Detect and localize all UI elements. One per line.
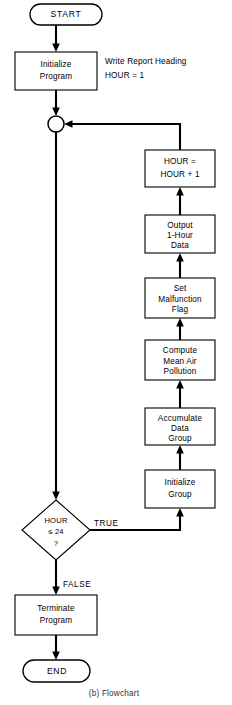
edge-label-true: TRUE — [94, 519, 119, 528]
compute-mean-label-line3: Pollution — [164, 367, 197, 376]
hour-decision-label-line3: ? — [54, 539, 58, 548]
arrowhead-terminate — [52, 587, 60, 596]
arrowhead-decision — [52, 492, 60, 501]
accumulate-data-label-line3: Group — [168, 434, 192, 443]
output-data-label-line2: 1-Hour — [167, 231, 193, 240]
output-data-label-line3: Data — [171, 241, 189, 250]
hour-increment-shape — [145, 150, 215, 187]
hour-decision-label-line1: HOUR — [44, 516, 67, 525]
node-end[interactable]: END — [23, 660, 90, 682]
node-accumulate-data-group[interactable]: Accumulate Data Group — [145, 408, 215, 445]
node-initialize-group[interactable]: Initialize Group — [145, 470, 215, 508]
set-malfunction-label-line2: Malfunction — [158, 295, 202, 304]
hour-increment-label-line1: HOUR = — [164, 157, 196, 166]
arrowhead-compute — [176, 380, 184, 389]
output-data-label-line1: Output — [167, 221, 193, 230]
node-junction-connector[interactable] — [48, 116, 64, 132]
hour-increment-label-line2: HOUR + 1 — [160, 170, 199, 179]
hour-decision-label-line2: ≤ 24 — [48, 527, 64, 536]
edge-label-false: FALSE — [63, 580, 91, 589]
arrowhead-initialize-group — [176, 508, 184, 517]
initialize-group-label-line1: Initialize — [164, 478, 195, 487]
initialize-group-label-line2: Group — [168, 490, 192, 499]
arrowhead-output — [176, 253, 184, 262]
set-malfunction-label-line1: Set — [174, 284, 187, 293]
arrowhead-end — [52, 652, 60, 661]
flowchart-page: START Initialize Program Write Report He… — [0, 0, 232, 705]
arrowhead-junction — [52, 108, 60, 117]
terminate-program-label-line1: Terminate — [37, 604, 75, 613]
init-note-line2: HOUR = 1 — [105, 71, 144, 80]
initialize-program-label-line2: Program — [40, 72, 72, 81]
node-terminate-program[interactable]: Terminate Program — [15, 595, 97, 635]
arrowhead-junction-loop — [64, 120, 73, 128]
initialize-program-label-line1: Initialize — [40, 60, 71, 69]
annotation-initialize-program: Write Report Heading HOUR = 1 — [105, 57, 187, 80]
node-start[interactable]: START — [30, 4, 102, 25]
node-set-malfunction-flag[interactable]: Set Malfunction Flag — [145, 278, 215, 318]
node-output-data[interactable]: Output 1-Hour Data — [145, 215, 215, 253]
end-label: END — [47, 666, 67, 676]
node-hour-increment[interactable]: HOUR = HOUR + 1 — [145, 150, 215, 187]
set-malfunction-label-line3: Flag — [172, 305, 189, 314]
arrowhead-hour-increment — [176, 187, 184, 196]
figure-caption: (b) Flowchart — [89, 689, 140, 698]
terminate-program-label-line2: Program — [40, 616, 72, 625]
arrowhead-initialize — [52, 44, 60, 53]
arrowhead-accumulate — [176, 445, 184, 454]
compute-mean-label-line1: Compute — [163, 346, 198, 355]
accumulate-data-label-line2: Data — [171, 424, 189, 433]
terminate-program-shape — [15, 595, 97, 635]
compute-mean-label-line2: Mean Air — [163, 357, 197, 366]
junction-circle-shape — [48, 116, 64, 132]
initialize-group-shape — [145, 470, 215, 508]
flowchart-diagram: START Initialize Program Write Report He… — [0, 0, 232, 705]
node-initialize-program[interactable]: Initialize Program — [15, 52, 97, 90]
edge-hour-increment-to-junction-loop — [70, 124, 180, 150]
arrowhead-malfunction — [176, 318, 184, 327]
initialize-program-shape — [15, 52, 97, 90]
start-label: START — [51, 9, 82, 19]
node-compute-mean-pollution[interactable]: Compute Mean Air Pollution — [145, 340, 215, 380]
accumulate-data-label-line1: Accumulate — [158, 414, 203, 423]
node-hour-decision[interactable]: HOUR ≤ 24 ? — [22, 500, 90, 560]
init-note-line1: Write Report Heading — [105, 57, 187, 66]
